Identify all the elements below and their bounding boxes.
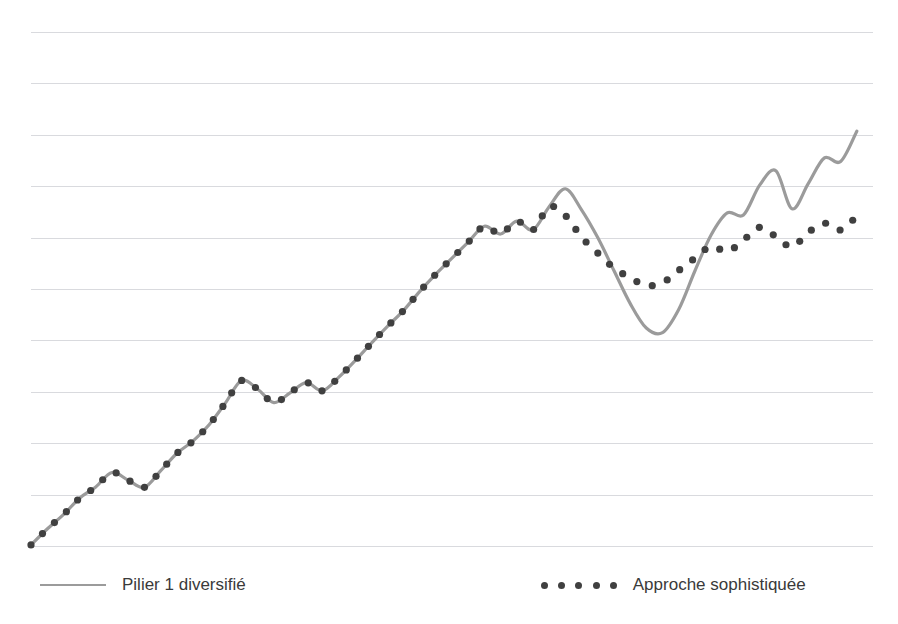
- data-point: [141, 484, 148, 491]
- data-point: [504, 225, 511, 232]
- data-point: [199, 428, 206, 435]
- legend-label-pilier-1-diversifie: Pilier 1 diversifié: [122, 575, 246, 595]
- data-point: [782, 241, 789, 248]
- data-point: [252, 384, 259, 391]
- gridlines: [31, 33, 873, 547]
- data-point: [387, 319, 394, 326]
- dotted-line-swatch-icon: [541, 581, 617, 589]
- data-point: [87, 487, 94, 494]
- data-point: [649, 282, 656, 289]
- legend-dot-icon: [593, 582, 600, 589]
- data-point: [74, 496, 81, 503]
- data-point: [756, 224, 763, 231]
- data-point: [490, 227, 497, 234]
- data-point: [476, 225, 483, 232]
- data-point: [219, 403, 226, 410]
- data-point: [399, 308, 406, 315]
- solid-line-swatch-icon: [40, 584, 106, 586]
- data-point: [633, 278, 640, 285]
- data-point: [606, 261, 613, 268]
- data-point: [291, 386, 298, 393]
- data-point: [836, 226, 843, 233]
- data-point: [849, 217, 856, 224]
- series-dotted-approche-sophistiquee: [27, 203, 856, 549]
- data-point: [731, 244, 738, 251]
- data-point: [530, 226, 537, 233]
- data-point: [113, 469, 120, 476]
- data-point: [420, 283, 427, 290]
- data-point: [163, 461, 170, 468]
- data-point: [443, 260, 450, 267]
- data-point: [454, 249, 461, 256]
- data-point: [174, 449, 181, 456]
- data-point: [210, 416, 217, 423]
- data-point: [822, 220, 829, 227]
- chart-svg: [0, 0, 898, 560]
- legend-item-approche-sophistiquee[interactable]: Approche sophistiquée: [541, 574, 806, 596]
- plot-area: [0, 0, 898, 560]
- legend-dot-icon: [541, 582, 548, 589]
- data-point: [99, 476, 106, 483]
- data-series: [27, 131, 856, 548]
- data-point: [770, 231, 777, 238]
- data-point: [264, 395, 271, 402]
- data-point: [39, 530, 46, 537]
- legend-label-approche-sophistiquee: Approche sophistiquée: [633, 575, 806, 595]
- data-point: [318, 387, 325, 394]
- chart-legend: Pilier 1 diversifié Approche sophistiqué…: [0, 560, 898, 624]
- legend-item-pilier-1-diversifie[interactable]: Pilier 1 diversifié: [40, 574, 246, 596]
- data-point: [676, 266, 683, 273]
- data-point: [689, 256, 696, 263]
- data-point: [594, 250, 601, 257]
- data-point: [354, 355, 361, 362]
- legend-dot-icon: [575, 582, 582, 589]
- data-point: [343, 366, 350, 373]
- data-point: [51, 519, 58, 526]
- data-point: [466, 238, 473, 245]
- data-point: [582, 238, 589, 245]
- data-point: [539, 212, 546, 219]
- data-point: [305, 379, 312, 386]
- data-point: [431, 272, 438, 279]
- data-point: [238, 377, 245, 384]
- data-point: [550, 203, 557, 210]
- data-point: [27, 541, 34, 548]
- series-line-pilier-1-diversifie: [31, 131, 857, 545]
- data-point: [376, 331, 383, 338]
- data-point: [517, 219, 524, 226]
- data-point: [701, 246, 708, 253]
- data-point: [365, 343, 372, 350]
- data-point: [563, 213, 570, 220]
- data-point: [409, 296, 416, 303]
- data-point: [796, 238, 803, 245]
- data-point: [716, 246, 723, 253]
- data-point: [619, 270, 626, 277]
- data-point: [126, 478, 133, 485]
- data-point: [572, 226, 579, 233]
- data-point: [331, 378, 338, 385]
- chart-container: Pilier 1 diversifié Approche sophistiqué…: [0, 0, 898, 624]
- data-point: [63, 508, 70, 515]
- data-point: [743, 234, 750, 241]
- data-point: [278, 396, 285, 403]
- data-point: [228, 389, 235, 396]
- data-point: [664, 276, 671, 283]
- legend-dot-icon: [610, 582, 617, 589]
- data-point: [152, 473, 159, 480]
- data-point: [808, 227, 815, 234]
- legend-dot-icon: [558, 582, 565, 589]
- data-point: [187, 439, 194, 446]
